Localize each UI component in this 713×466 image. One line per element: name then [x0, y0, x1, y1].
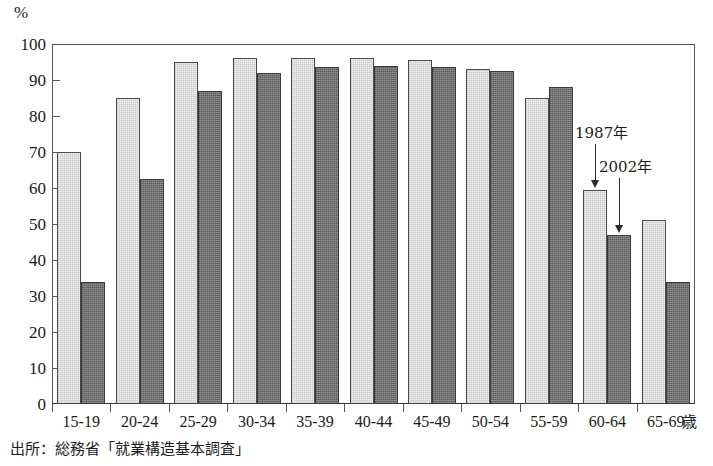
x-axis-tick-label-45-49: 45-49 [413, 414, 450, 430]
bar-25-29-y2002 [198, 91, 222, 404]
x-axis-tick [286, 404, 287, 412]
x-axis-tick-label-20-24: 20-24 [121, 414, 158, 430]
bar-25-29-y1987 [174, 62, 198, 404]
bar-30-34-y2002 [257, 73, 281, 404]
x-axis-tick [110, 404, 111, 412]
x-axis-tick [403, 404, 404, 412]
bar-40-44-y1987 [350, 58, 374, 404]
x-axis-tick [169, 404, 170, 412]
x-axis-tick [227, 404, 228, 412]
bar-15-19-y2002 [81, 282, 105, 404]
bar-50-54-y2002 [490, 71, 514, 404]
x-axis-tick [344, 404, 345, 412]
bar-40-44-y2002 [374, 66, 398, 404]
x-axis-tick-label-50-54: 50-54 [472, 414, 509, 430]
x-axis-tick-label-55-59: 55-59 [530, 414, 567, 430]
x-axis-tick [637, 404, 638, 412]
x-axis-tick-label-65-69: 65-69 [647, 414, 684, 430]
bar-35-39-y1987 [291, 58, 315, 404]
annotation-label-1987: 1987年 [575, 126, 628, 141]
x-axis-tick [578, 404, 579, 412]
x-axis-tick-label-35-39: 35-39 [296, 414, 333, 430]
bar-50-54-y1987 [466, 69, 490, 404]
bar-60-64-y2002 [607, 235, 631, 404]
x-axis-tick [52, 404, 53, 412]
x-axis-unit-label: 歳 [682, 415, 697, 430]
x-axis-tick-label-30-34: 30-34 [238, 414, 275, 430]
chart-page: % 0102030405060708090100 15-1920-2425-29… [0, 0, 713, 466]
source-note: 出所：総務省「就業構造基本調査」 [10, 442, 250, 457]
y-axis-tick [52, 80, 60, 81]
x-axis-tick [461, 404, 462, 412]
bar-30-34-y1987 [233, 58, 257, 404]
x-axis-tick-label-40-44: 40-44 [355, 414, 392, 430]
bar-45-49-y1987 [408, 60, 432, 404]
bar-60-64-y1987 [583, 190, 607, 404]
bar-65-69-y2002 [666, 282, 690, 404]
bar-45-49-y2002 [432, 67, 456, 404]
x-axis-tick [520, 404, 521, 412]
x-axis-tick-label-60-64: 60-64 [589, 414, 626, 430]
annotation-label-2002: 2002年 [599, 160, 652, 175]
x-axis-tick-label-15-19: 15-19 [63, 414, 100, 430]
bar-55-59-y1987 [525, 98, 549, 404]
x-axis-tick-label-25-29: 25-29 [179, 414, 216, 430]
bar-55-59-y2002 [549, 87, 573, 404]
bar-20-24-y1987 [116, 98, 140, 404]
bar-35-39-y2002 [315, 67, 339, 404]
bar-65-69-y1987 [642, 220, 666, 404]
bar-15-19-y1987 [57, 152, 81, 404]
y-axis-tick [52, 116, 60, 117]
bar-20-24-y2002 [140, 179, 164, 404]
